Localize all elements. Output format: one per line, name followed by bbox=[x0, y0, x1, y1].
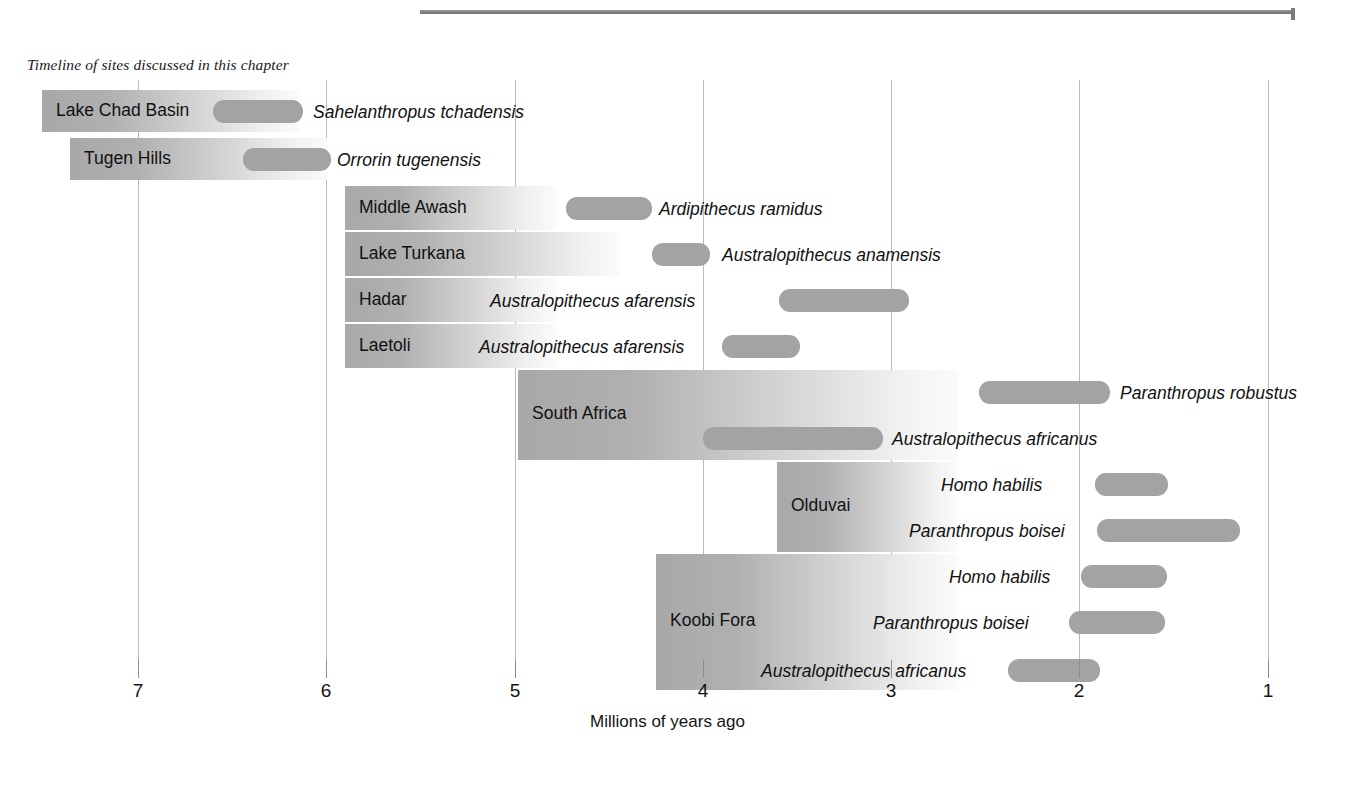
tick-label-6: 6 bbox=[321, 680, 332, 702]
timeline-plot-area: Lake Chad Basin Sahelanthropus tchadensi… bbox=[0, 80, 1363, 670]
species-label-olduvai-paranthropus-boisei: Paranthropus boisei bbox=[909, 521, 1065, 542]
site-label-lake-turkana: Lake Turkana bbox=[359, 243, 465, 264]
page-box-bottom-rule bbox=[420, 8, 1295, 20]
tick-mark-3 bbox=[891, 660, 892, 678]
gridline-2 bbox=[1079, 80, 1080, 670]
bar-olduvai-homo-habilis[interactable] bbox=[1095, 473, 1168, 496]
site-label-middle-awash: Middle Awash bbox=[359, 197, 467, 218]
species-label-australopithecus-anamensis: Australopithecus anamensis bbox=[722, 245, 941, 266]
site-label-lake-chad-basin: Lake Chad Basin bbox=[56, 100, 189, 121]
species-label-laetoli-afarensis: Australopithecus afarensis bbox=[479, 337, 684, 358]
site-label-koobi-fora: Koobi Fora bbox=[670, 610, 756, 631]
bar-olduvai-paranthropus-boisei[interactable] bbox=[1097, 519, 1240, 542]
bar-paranthropus-robustus[interactable] bbox=[979, 381, 1110, 404]
tick-mark-2 bbox=[1079, 660, 1080, 678]
chart-caption: Timeline of sites discussed in this chap… bbox=[27, 56, 289, 74]
tick-label-5: 5 bbox=[510, 680, 521, 702]
species-label-sahelanthropus-tchadensis: Sahelanthropus tchadensis bbox=[313, 102, 524, 123]
species-label-paranthropus-robustus: Paranthropus robustus bbox=[1120, 383, 1297, 404]
bar-south-africa-australopithecus-africanus[interactable] bbox=[703, 427, 883, 450]
x-axis-title: Millions of years ago bbox=[0, 712, 1363, 732]
box-horizontal-rule bbox=[420, 10, 1295, 14]
site-block-middle-awash[interactable]: Middle Awash bbox=[345, 186, 557, 230]
site-label-laetoli: Laetoli bbox=[359, 335, 411, 356]
bar-australopithecus-anamensis[interactable] bbox=[652, 243, 710, 266]
bar-laetoli-australopithecus-afarensis[interactable] bbox=[722, 335, 800, 358]
bar-koobi-fora-paranthropus-boisei[interactable] bbox=[1069, 611, 1165, 634]
tick-mark-4 bbox=[703, 660, 704, 678]
bar-ardipithecus-ramidus[interactable] bbox=[566, 197, 652, 220]
species-label-south-africa-africanus: Australopithecus africanus bbox=[892, 429, 1097, 450]
tick-mark-1 bbox=[1268, 660, 1269, 678]
species-label-koobi-fora-homo-habilis: Homo habilis bbox=[949, 567, 1050, 588]
tick-label-1: 1 bbox=[1263, 680, 1274, 702]
species-label-olduvai-homo-habilis: Homo habilis bbox=[941, 475, 1042, 496]
tick-mark-6 bbox=[326, 660, 327, 678]
x-axis: 7 6 5 4 3 2 1 Millions of years ago bbox=[0, 660, 1363, 740]
species-label-hadar-afarensis: Australopithecus afarensis bbox=[490, 291, 695, 312]
tick-mark-5 bbox=[515, 660, 516, 678]
species-label-ardipithecus-ramidus: Ardipithecus ramidus bbox=[659, 199, 822, 220]
tick-label-7: 7 bbox=[133, 680, 144, 702]
species-label-orrorin-tugenensis: Orrorin tugenensis bbox=[337, 150, 481, 171]
bar-sahelanthropus-tchadensis[interactable] bbox=[213, 100, 303, 123]
box-corner-stub bbox=[1291, 8, 1295, 20]
site-label-south-africa: South Africa bbox=[532, 403, 626, 424]
site-label-hadar: Hadar bbox=[359, 289, 407, 310]
tick-label-2: 2 bbox=[1074, 680, 1085, 702]
species-label-koobi-fora-paranthropus-boisei: Paranthropus boisei bbox=[873, 613, 1029, 634]
site-label-olduvai: Olduvai bbox=[791, 495, 850, 516]
gridline-1 bbox=[1268, 80, 1269, 670]
bar-orrorin-tugenensis[interactable] bbox=[243, 148, 331, 171]
x-axis-title-text: Millions of years ago bbox=[590, 712, 745, 731]
tick-label-4: 4 bbox=[698, 680, 709, 702]
bar-koobi-fora-homo-habilis[interactable] bbox=[1081, 565, 1167, 588]
tick-mark-7 bbox=[138, 660, 139, 678]
site-block-lake-turkana[interactable]: Lake Turkana bbox=[345, 232, 620, 276]
gridline-5 bbox=[515, 80, 516, 670]
tick-label-3: 3 bbox=[886, 680, 897, 702]
site-label-tugen-hills: Tugen Hills bbox=[84, 148, 171, 169]
bar-hadar-australopithecus-afarensis[interactable] bbox=[779, 289, 909, 312]
